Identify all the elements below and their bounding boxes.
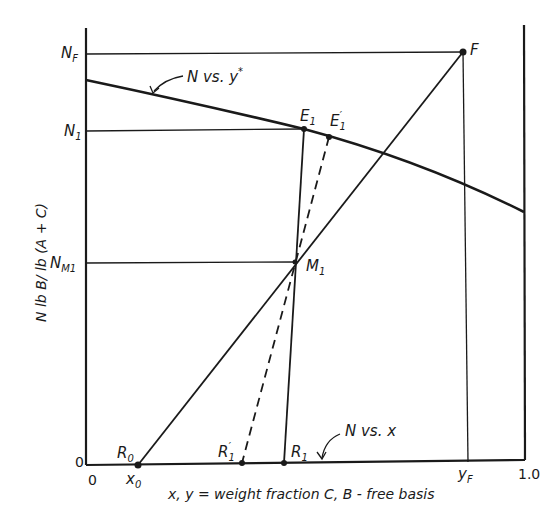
point-m1 [293, 260, 298, 265]
point-e1p [326, 134, 332, 140]
x-origin-label: 0 [88, 472, 97, 488]
label-n-vs-x: N vs. x [345, 422, 396, 440]
label-r1p: R1′ [218, 441, 235, 463]
tick-label-n1: N1 [64, 122, 82, 142]
tick-label-nf: NF [61, 44, 78, 64]
tick-label-x0: x0 [125, 470, 141, 490]
point-f [460, 49, 467, 56]
tie-line-e1p-r1p [242, 137, 329, 463]
label-r0: R0 [117, 444, 134, 464]
n1-line [86, 129, 304, 131]
label-e1p: E1′ [330, 110, 346, 132]
label-r1: R1 [291, 443, 308, 463]
extraction-diagram: NF N1 NM1 0 0 x0 yF 1.0 x, y = weight fr… [0, 0, 557, 532]
y-axis-title: N lb B/ lb (A + C) [33, 203, 49, 322]
label-m1: M1 [306, 257, 325, 277]
label-e1: E1 [300, 107, 316, 127]
x-axis-title: x, y = weight fraction C, B - free basis [167, 486, 435, 502]
nm1-line [86, 262, 295, 263]
right-boundary-line [524, 25, 525, 460]
extract-curve-n-vs-ystar [86, 80, 524, 212]
point-r1p [239, 460, 245, 466]
tick-label-yf: yF [457, 465, 473, 485]
tie-line-e1-r1 [284, 129, 304, 463]
y-origin-label: 0 [75, 454, 84, 470]
x-end-label: 1.0 [518, 466, 540, 482]
point-r1 [281, 460, 287, 466]
point-e1 [301, 126, 307, 132]
nf-line [86, 52, 463, 54]
tick-label-nm1: NM1 [50, 254, 76, 274]
yf-vertical-line [463, 52, 468, 462]
arrowhead-n-vs-x [317, 452, 326, 459]
label-f: F [470, 41, 479, 59]
label-n-vs-ystar: N vs. y* [187, 66, 243, 86]
point-r0 [135, 462, 142, 469]
